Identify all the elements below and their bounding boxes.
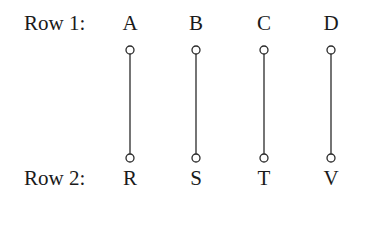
row-2-item-r: R (115, 168, 145, 189)
row-2-item-s: S (181, 168, 211, 189)
row-2-item-v: V (316, 168, 346, 189)
connector-a-r (126, 46, 134, 162)
row-2-label: Row 2: (24, 168, 85, 189)
connector-c-t (260, 46, 268, 162)
connector-d-v (327, 46, 335, 162)
connector-b-s (192, 46, 200, 162)
row-2-item-t: T (249, 168, 279, 189)
